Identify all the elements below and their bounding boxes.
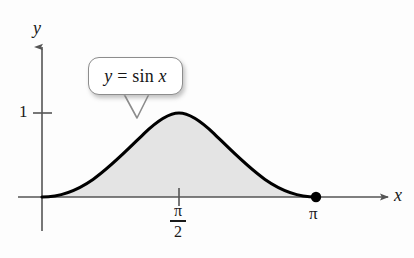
fraction-numerator: π	[170, 203, 186, 220]
callout-equals: =	[112, 66, 132, 86]
x-tick-label-pi-over-two: π 2	[170, 203, 186, 240]
sine-curve-area-figure: y = sin x y x 1 π π 2	[0, 0, 414, 258]
callout-tail	[124, 94, 149, 118]
fraction-bar	[170, 220, 186, 222]
fraction-pi-over-two: π 2	[170, 203, 186, 240]
plot-canvas	[0, 0, 414, 258]
y-axis-label: y	[33, 18, 41, 39]
x-tick-label-pi: π	[309, 204, 318, 224]
y-tick-label-one: 1	[19, 102, 28, 122]
equation-callout: y = sin x	[88, 57, 183, 95]
fraction-denominator: 2	[170, 223, 186, 240]
endpoint-dot-pi	[311, 192, 321, 202]
callout-var-x: x	[154, 66, 167, 86]
equation-callout-label: y = sin x	[104, 66, 166, 87]
callout-sin: sin	[132, 66, 154, 86]
x-axis-label: x	[394, 185, 402, 206]
